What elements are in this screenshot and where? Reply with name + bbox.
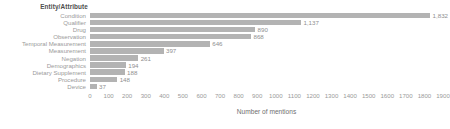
- bar-track: 397: [90, 47, 448, 54]
- bar-value-label: 1,832: [433, 12, 448, 19]
- bar-row: Drug890: [0, 26, 448, 33]
- x-axis-tick-label: 100: [103, 92, 113, 99]
- bar-value-label: 194: [128, 62, 138, 69]
- bar-row: Device37: [0, 83, 448, 90]
- bar-value-label: 37: [99, 83, 106, 90]
- x-axis-tick-label: 1300: [325, 92, 339, 99]
- bar-track: 890: [90, 26, 448, 33]
- x-axis-tick-label: 1000: [269, 92, 283, 99]
- bar-track: 646: [90, 40, 448, 47]
- x-axis-tick-label: 400: [159, 92, 169, 99]
- x-axis-tick-label: 200: [122, 92, 132, 99]
- bar-fill[interactable]: [90, 55, 138, 60]
- bar-row: Negation261: [0, 54, 448, 61]
- bar-fill[interactable]: [90, 62, 126, 67]
- x-axis-tick-label: 700: [215, 92, 225, 99]
- bar-category-label: Negation: [0, 55, 86, 62]
- bar-row: Demographics194: [0, 62, 448, 69]
- x-axis-tick-label: 1500: [362, 92, 376, 99]
- bar-category-label: Demographics: [0, 62, 86, 69]
- bar-row: Procedure148: [0, 76, 448, 83]
- bar-category-label: Temporal Measurement: [0, 40, 86, 47]
- x-axis-tick-label: 1400: [343, 92, 357, 99]
- x-axis-tick-label: 600: [196, 92, 206, 99]
- bar-track: 194: [90, 62, 448, 69]
- x-axis-tick-label: 800: [234, 92, 244, 99]
- bar-value-label: 890: [258, 26, 268, 33]
- bar-track: 148: [90, 76, 448, 83]
- bar-row: Measurement397: [0, 47, 448, 54]
- bar-category-label: Device: [0, 83, 86, 90]
- x-axis-tick-label: 1800: [418, 92, 432, 99]
- bar-fill[interactable]: [90, 84, 97, 89]
- bar-fill[interactable]: [90, 69, 125, 74]
- x-axis-title: Number of mentions: [90, 108, 443, 115]
- bar-fill[interactable]: [90, 48, 164, 53]
- bar-row: Condition1,832: [0, 12, 448, 19]
- bar-track: 868: [90, 33, 448, 40]
- bar-value-label: 868: [253, 33, 263, 40]
- bar-fill[interactable]: [90, 34, 251, 39]
- bar-track: 261: [90, 54, 448, 61]
- bar-category-label: Dietary Supplement: [0, 69, 86, 76]
- bar-category-label: Drug: [0, 26, 86, 33]
- x-axis-tick-label: 300: [141, 92, 151, 99]
- x-axis-tick-label: 1200: [306, 92, 320, 99]
- bar-row: Temporal Measurement646: [0, 40, 448, 47]
- bar-row: Dietary Supplement188: [0, 69, 448, 76]
- x-axis-ticks: 0100200300400500600700800900100011001200…: [90, 92, 443, 102]
- bar-value-label: 261: [141, 55, 151, 62]
- x-axis-tick-label: 1900: [436, 92, 450, 99]
- bar-fill[interactable]: [90, 27, 255, 32]
- bar-track: 1,137: [90, 19, 448, 26]
- bar-category-label: Measurement: [0, 47, 86, 54]
- bar-value-label: 148: [120, 76, 130, 83]
- bar-track: 37: [90, 83, 448, 90]
- bar-category-label: Observation: [0, 33, 86, 40]
- bar-fill[interactable]: [90, 41, 210, 46]
- bar-row: Observation868: [0, 33, 448, 40]
- bar-track: 188: [90, 69, 448, 76]
- x-axis-tick-label: 900: [252, 92, 262, 99]
- bar-fill[interactable]: [90, 20, 301, 25]
- bar-category-label: Condition: [0, 12, 86, 19]
- x-axis-tick-label: 500: [178, 92, 188, 99]
- x-axis-tick-label: 1100: [288, 92, 301, 99]
- bar-value-label: 397: [166, 47, 176, 54]
- y-axis-group-title: Entity/Attribute: [0, 3, 88, 10]
- bar-value-label: 188: [127, 69, 137, 76]
- bar-fill[interactable]: [90, 13, 430, 18]
- bar-category-label: Qualifier: [0, 19, 86, 26]
- x-axis-tick-label: 1700: [399, 92, 413, 99]
- bar-value-label: 646: [212, 40, 222, 47]
- bar-row: Qualifier1,137: [0, 19, 448, 26]
- x-axis-tick-label: 1600: [380, 92, 394, 99]
- bar-value-label: 1,137: [303, 19, 318, 26]
- bar-fill[interactable]: [90, 77, 117, 82]
- bar-track: 1,832: [90, 12, 448, 19]
- plot-area: Condition1,832Qualifier1,137Drug890Obser…: [0, 12, 448, 90]
- x-axis-tick-label: 0: [88, 92, 91, 99]
- bar-category-label: Procedure: [0, 76, 86, 83]
